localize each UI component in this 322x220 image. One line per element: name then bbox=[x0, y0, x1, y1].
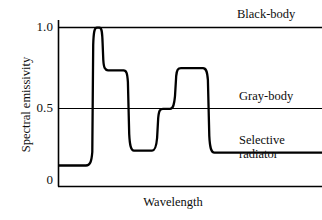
selective-radiator-label-line1: Selective bbox=[239, 133, 285, 147]
selective-radiator-label-line2: radiator bbox=[239, 148, 285, 162]
y-axis-title: Spectral emissivity bbox=[20, 25, 33, 185]
black-body-label: Black-body bbox=[237, 8, 295, 22]
selective-radiator-label: Selective radiator bbox=[239, 134, 285, 161]
spectral-emissivity-figure: 1.0 0.5 0 Spectral emissivity Wavelength… bbox=[0, 0, 322, 220]
gray-body-label: Gray-body bbox=[239, 90, 293, 104]
x-axis-title: Wavelength bbox=[58, 196, 288, 209]
